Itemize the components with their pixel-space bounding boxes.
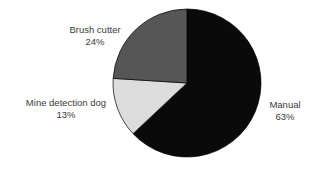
slice-label-mine-detection-dog-name: Mine detection dog: [11, 97, 121, 109]
slice-label-brush-cutter: Brush cutter 24%: [57, 24, 133, 48]
pie-chart-canvas: [0, 0, 311, 170]
slice-label-mine-detection-dog: Mine detection dog 13%: [11, 97, 121, 121]
slice-label-brush-cutter-name: Brush cutter: [57, 24, 133, 36]
pie-slice-group: [113, 9, 261, 157]
pie-chart-figure: Brush cutter 24% Mine detection dog 13% …: [0, 0, 311, 170]
slice-label-mine-detection-dog-value: 13%: [11, 109, 121, 121]
slice-label-brush-cutter-value: 24%: [57, 36, 133, 48]
slice-label-manual-name: Manual: [262, 99, 308, 111]
slice-label-manual-value: 63%: [262, 111, 308, 123]
slice-label-manual: Manual 63%: [262, 99, 308, 123]
